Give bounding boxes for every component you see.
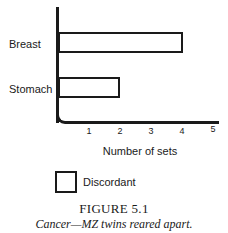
category-label-stomach: Stomach [0, 83, 52, 95]
x-tick-1: 1 [83, 126, 95, 136]
bar-stomach [58, 77, 120, 98]
legend-label-discordant: Discordant [83, 176, 136, 188]
category-label-breast: Breast [0, 38, 52, 50]
x-tick-2: 2 [114, 126, 126, 136]
x-tick-3: 3 [145, 126, 157, 136]
x-tick-5: 5 [207, 124, 219, 134]
x-tick-4: 4 [176, 126, 188, 136]
y-axis [56, 7, 59, 123]
figure-caption: Cancer—MZ twins reared apart. [0, 217, 228, 232]
legend-swatch-discordant [55, 171, 77, 193]
figure-number: FIGURE 5.1 [0, 201, 228, 217]
x-axis-label: Number of sets [80, 145, 200, 157]
bar-breast [58, 32, 183, 53]
x-axis [65, 121, 219, 124]
